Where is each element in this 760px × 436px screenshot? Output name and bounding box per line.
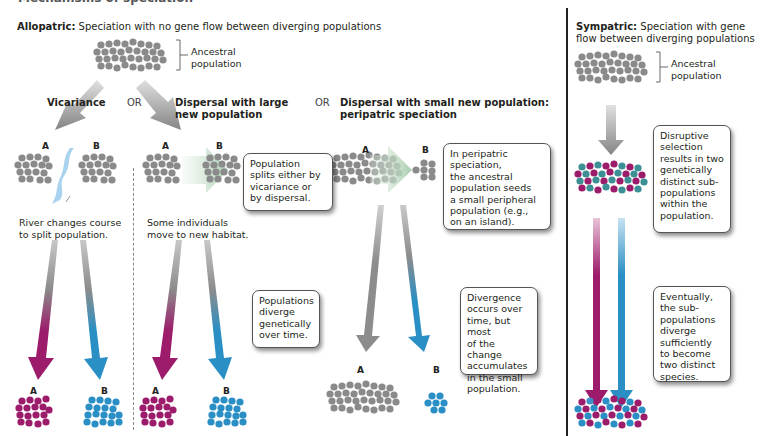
note-populations-diverge: Populations diverge genetically over tim… bbox=[252, 290, 320, 348]
bottom-label-b-2: B bbox=[223, 386, 230, 396]
allopatric-heading: Allopatric: Speciation with no gene flow… bbox=[17, 21, 381, 33]
label-b-peripatric: B bbox=[422, 145, 429, 155]
note-population-splits: Population splits either by vicariance o… bbox=[243, 153, 333, 211]
vicariance-title: Vicariance bbox=[47, 97, 106, 109]
ancestral-label-sympatric: Ancestral population bbox=[671, 58, 722, 81]
ancestral-label-allopatric: Ancestral population bbox=[191, 46, 242, 69]
label-b-dispersal: B bbox=[216, 141, 223, 151]
arrow-to-disruptive bbox=[598, 105, 624, 155]
dispersal-caption: Some individuals move to new habitat. bbox=[147, 217, 249, 240]
label-b-vicariance: B bbox=[93, 141, 100, 151]
vicariance-caption: River changes course to split population… bbox=[19, 217, 121, 240]
note-peripatric: In peripatric speciation, the ancestral … bbox=[443, 143, 551, 230]
sympatric-heading: Sympatric: Speciation with gene flow bet… bbox=[576, 21, 756, 45]
section-divider bbox=[566, 8, 568, 436]
bottom-label-a-1: A bbox=[30, 386, 37, 396]
allopatric-heading-rest: Speciation with no gene flow between div… bbox=[75, 21, 381, 32]
arrow-magenta bbox=[585, 218, 608, 408]
dispersal-small-title: Dispersal with small new population: per… bbox=[340, 97, 549, 121]
river bbox=[52, 148, 74, 204]
or-label-2: OR bbox=[315, 97, 330, 108]
note-eventually: Eventually, the sub- populations diverge… bbox=[653, 286, 731, 382]
ancestral-population-allopatric bbox=[93, 38, 166, 71]
bottom-label-b-1: B bbox=[101, 386, 108, 396]
arrow-blue bbox=[610, 218, 633, 408]
bottom-label-a-3: A bbox=[357, 365, 364, 375]
dashed-divider bbox=[133, 168, 134, 430]
sympatric-heading-bold: Sympatric: bbox=[576, 21, 637, 32]
dispersal-arrow-small bbox=[370, 146, 412, 193]
allopatric-heading-bold: Allopatric: bbox=[17, 21, 75, 32]
label-a-dispersal: A bbox=[162, 141, 169, 151]
label-a-peripatric: A bbox=[362, 145, 369, 155]
bottom-label-a-2: A bbox=[152, 386, 159, 396]
label-a-vicariance: A bbox=[42, 141, 49, 151]
note-divergence: Divergence occurs over time, but most of… bbox=[460, 287, 538, 375]
dispersal-large-title: Dispersal with large new population bbox=[175, 97, 288, 121]
note-disruptive-selection: Disruptive selection results in two gene… bbox=[653, 125, 731, 233]
bottom-label-b-3: B bbox=[433, 365, 440, 375]
or-label-1: OR bbox=[127, 97, 142, 108]
